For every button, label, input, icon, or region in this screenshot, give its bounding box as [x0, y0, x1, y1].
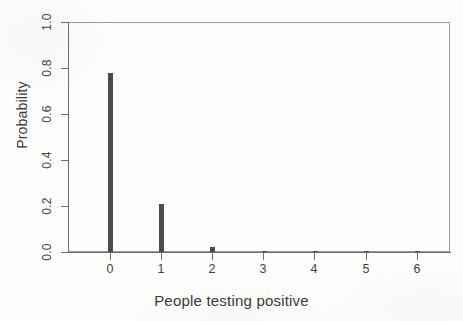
plot-area-box: [68, 22, 450, 252]
bar-5: [364, 251, 369, 252]
y-axis-tick-label-0: 0.0: [40, 238, 54, 266]
x-axis-tick-label-4: 4: [302, 262, 326, 276]
x-axis-tick-5: [366, 253, 367, 260]
x-axis-line: [68, 252, 451, 253]
bar-2: [210, 247, 215, 252]
chart-figure: 0.0 0.2 0.4 0.6 0.8 1.0 0 1 2 3 4 5 6 Pr…: [0, 0, 463, 321]
x-axis-tick-label-0: 0: [98, 262, 122, 276]
y-axis-tick-2: [61, 160, 68, 161]
y-axis-tick-label-4: 0.8: [40, 54, 54, 82]
x-axis-tick-label-3: 3: [251, 262, 275, 276]
y-axis-tick-label-5: 1.0: [40, 8, 54, 36]
x-axis-tick-4: [314, 253, 315, 260]
y-axis-tick-1: [61, 206, 68, 207]
bar-4: [313, 251, 318, 252]
y-axis-tick-3: [61, 114, 68, 115]
x-axis-tick-0: [110, 253, 111, 260]
y-axis-line: [68, 22, 69, 253]
y-axis-tick-label-2: 0.4: [40, 146, 54, 174]
y-axis-title: Probability: [14, 55, 30, 175]
y-axis-tick-4: [61, 68, 68, 69]
x-axis-tick-2: [212, 253, 213, 260]
y-axis-tick-0: [61, 252, 68, 253]
x-axis-tick-3: [263, 253, 264, 260]
y-axis-tick-label-1: 0.2: [40, 192, 54, 220]
x-axis-tick-label-6: 6: [405, 262, 429, 276]
bar-0: [108, 73, 113, 252]
y-axis-tick-5: [61, 22, 68, 23]
x-axis-tick-1: [161, 253, 162, 260]
x-axis-tick-6: [417, 253, 418, 260]
x-axis-tick-label-2: 2: [200, 262, 224, 276]
x-axis-tick-label-5: 5: [354, 262, 378, 276]
x-axis-tick-label-1: 1: [149, 262, 173, 276]
bar-6: [415, 251, 420, 252]
x-axis-title: People testing positive: [0, 292, 463, 309]
bar-1: [159, 204, 164, 252]
bar-3: [262, 251, 267, 252]
y-axis-tick-label-3: 0.6: [40, 100, 54, 128]
